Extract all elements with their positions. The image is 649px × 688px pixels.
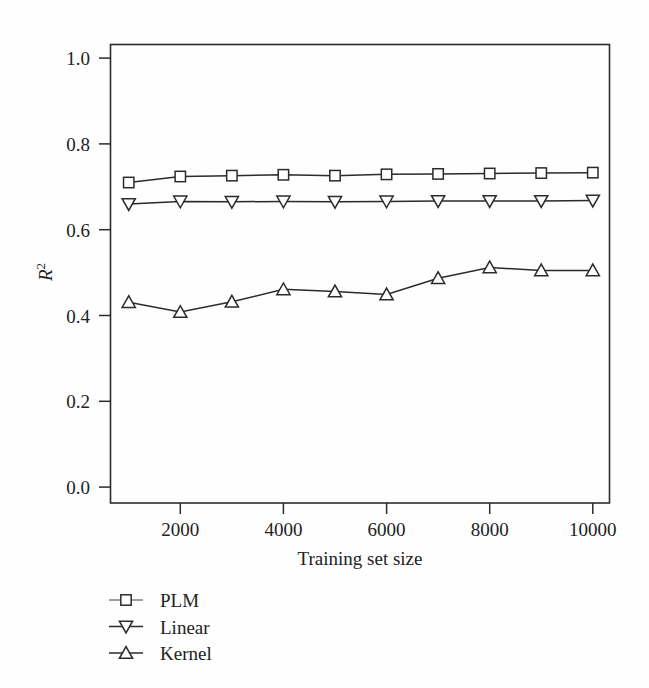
marker-triangle-up bbox=[483, 261, 496, 273]
y-ticklabel-3: 0.6 bbox=[66, 220, 90, 241]
marker-square bbox=[278, 170, 288, 180]
svg-text:R2: R2 bbox=[33, 263, 56, 282]
data-series-layer bbox=[122, 167, 599, 317]
marker-square bbox=[121, 595, 131, 605]
y-axis-title-superscript: 2 bbox=[33, 263, 48, 270]
y-ticklabel-0: 0.0 bbox=[66, 477, 90, 498]
marker-square bbox=[484, 168, 494, 178]
legend-item-plm[interactable]: PLM bbox=[109, 590, 199, 611]
plot-border bbox=[111, 45, 610, 504]
x-ticklabel-1: 4000 bbox=[264, 519, 302, 540]
y-ticklabel-2: 0.4 bbox=[66, 306, 90, 327]
marker-square bbox=[330, 170, 340, 180]
y-ticklabel-5: 1.0 bbox=[66, 48, 90, 69]
x-axis-ticks bbox=[180, 503, 593, 514]
marker-square bbox=[124, 177, 134, 187]
plot-frame bbox=[111, 45, 610, 504]
series-plm bbox=[124, 167, 598, 187]
y-axis-title-text: R bbox=[35, 269, 56, 282]
x-axis-title: Training set size bbox=[298, 548, 423, 569]
series-line bbox=[129, 173, 593, 183]
marker-square bbox=[381, 169, 391, 179]
legend-label: Kernel bbox=[160, 643, 212, 664]
marker-square bbox=[227, 170, 237, 180]
x-ticklabel-2: 6000 bbox=[368, 519, 406, 540]
y-axis-ticks bbox=[99, 58, 111, 487]
legend-item-kernel[interactable]: Kernel bbox=[109, 643, 212, 664]
series-line bbox=[129, 201, 593, 204]
y-ticklabel-4: 0.8 bbox=[66, 134, 90, 155]
y-ticklabel-1: 0.2 bbox=[66, 391, 90, 412]
r2-vs-training-set-size-chart: 1.0 0.8 0.6 0.4 0.2 0.0 R2 2000 4000 600… bbox=[0, 0, 649, 688]
figure-container: 1.0 0.8 0.6 0.4 0.2 0.0 R2 2000 4000 600… bbox=[0, 0, 649, 688]
series-kernel bbox=[122, 261, 599, 317]
x-ticklabel-4: 10000 bbox=[569, 519, 617, 540]
legend-label: PLM bbox=[160, 590, 199, 611]
legend-label: Linear bbox=[160, 617, 210, 638]
legend-item-linear[interactable]: Linear bbox=[109, 617, 210, 638]
marker-square bbox=[588, 167, 598, 177]
series-linear bbox=[122, 195, 599, 210]
series-line bbox=[129, 267, 593, 312]
marker-triangle-up bbox=[122, 296, 135, 308]
x-axis-tick-labels: 2000 4000 6000 8000 10000 bbox=[161, 519, 616, 540]
marker-square bbox=[175, 171, 185, 181]
y-axis-tick-labels: 1.0 0.8 0.6 0.4 0.2 0.0 bbox=[66, 48, 90, 498]
marker-square bbox=[433, 169, 443, 179]
y-axis-title: R2 bbox=[33, 263, 56, 282]
marker-triangle-down bbox=[122, 199, 135, 211]
marker-square bbox=[536, 168, 546, 178]
chart-legend: PLMLinearKernel bbox=[109, 590, 212, 664]
x-ticklabel-0: 2000 bbox=[161, 519, 199, 540]
x-ticklabel-3: 8000 bbox=[471, 519, 509, 540]
